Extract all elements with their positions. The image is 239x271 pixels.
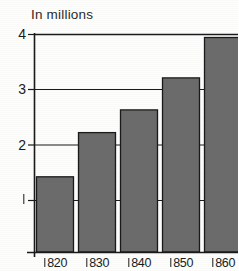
x-tick-label-1850-suffix: 850	[173, 256, 193, 270]
plot-area	[0, 0, 238, 271]
x-tick-label-1820-suffix: 820	[47, 256, 67, 270]
bar-1830	[79, 133, 116, 252]
y-axis-ticks	[28, 35, 34, 201]
bar-1860	[205, 38, 239, 253]
bar-1850	[163, 78, 200, 252]
y-tick-label-1	[6, 193, 26, 207]
x-tick-label-1860-suffix: 860	[215, 256, 235, 270]
y-tick-label-3: 3	[6, 82, 26, 96]
y-tick-label-2: 2	[6, 138, 26, 152]
x-tick-label-1860: 860	[197, 257, 238, 270]
y-tick-label-4: 4	[6, 27, 26, 41]
x-tick-label-1830-suffix: 830	[89, 256, 109, 270]
bar-chart-figure: In millions 4 3	[0, 0, 238, 271]
bar-1820	[37, 177, 74, 252]
x-tick-label-1840-suffix: 840	[131, 256, 151, 270]
bar-1840	[121, 110, 158, 252]
